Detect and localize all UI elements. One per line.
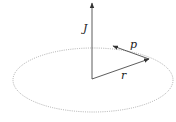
label-j: J xyxy=(81,22,88,35)
angular-momentum-diagram: J p r xyxy=(0,0,176,122)
label-p: p xyxy=(130,38,137,51)
label-r: r xyxy=(121,69,127,82)
orbit-ellipse xyxy=(13,48,173,112)
